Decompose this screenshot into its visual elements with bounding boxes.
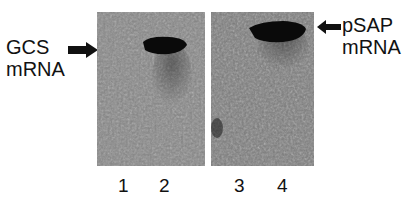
lane-label-2: 2 (159, 175, 170, 197)
arrow-right-icon (68, 42, 100, 58)
arrow-left-icon (317, 20, 341, 34)
psap-label-line1: pSAP (342, 14, 401, 36)
gel-panel-right (211, 12, 314, 166)
gcs-label: GCS mRNA (6, 36, 65, 80)
gcs-label-line1: GCS (6, 36, 65, 58)
lane-label-3: 3 (234, 175, 245, 197)
gcs-label-line2: mRNA (6, 58, 65, 80)
lane-label-1: 1 (118, 175, 129, 197)
psap-label-line2: mRNA (342, 36, 401, 58)
lane-label-4: 4 (277, 175, 288, 197)
psap-label: pSAP mRNA (342, 14, 401, 58)
gel-panel-left (97, 12, 205, 166)
